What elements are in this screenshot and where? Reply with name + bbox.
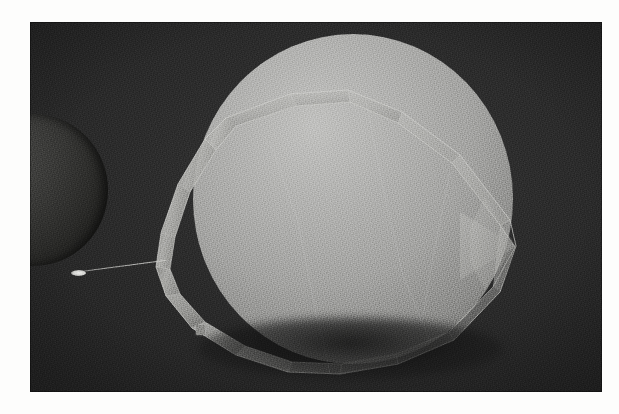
band-apex <box>460 197 516 292</box>
needle-probe <box>71 265 167 277</box>
square-marker <box>196 325 205 335</box>
photo-page <box>0 0 619 414</box>
needle-tip-icon <box>71 270 86 276</box>
photo-plate <box>30 22 602 392</box>
sphere-contact-shadow <box>198 318 503 380</box>
